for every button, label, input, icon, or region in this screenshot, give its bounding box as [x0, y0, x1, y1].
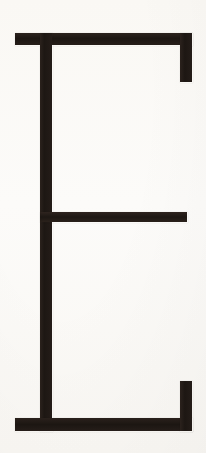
letter-e-middle-arm: [40, 212, 187, 222]
letter-e-vertical-stem: [40, 33, 52, 431]
letter-e-bottom-right-serif: [180, 381, 192, 431]
letterform-canvas: [0, 0, 206, 453]
letter-e-bottom-arm: [15, 418, 192, 431]
paper-texture: [0, 0, 206, 453]
letter-e-top-right-serif: [180, 33, 192, 82]
